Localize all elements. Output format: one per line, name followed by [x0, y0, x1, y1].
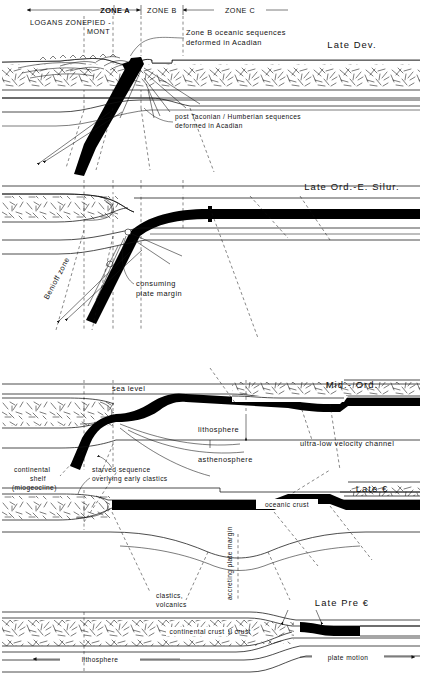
lithosphere-label-mid-ord: lithosphere: [198, 425, 239, 434]
panel-late-cambrian: Late € continental shelf (miogeocline) s…: [2, 456, 420, 608]
zone-c-label: ZONE C: [225, 6, 255, 15]
zone-b-oceanic-line2: deformed in Acadian: [186, 38, 262, 47]
panel-late-precambrian: Late Pre € continental crust continental…: [2, 597, 420, 672]
benioff-zone-label: Benioff zone: [42, 256, 72, 301]
era-label-late-dev: Late Dev.: [327, 39, 376, 50]
oceanic-crust-label: oceanic crust: [265, 501, 309, 508]
clastics-volcanics-line2: volcanics: [156, 601, 187, 608]
zone-a-label-text: ZONE A: [100, 6, 129, 15]
accreting-plate-margin-label: accreting plate margin: [226, 526, 234, 600]
divergence-arrows: [282, 610, 322, 624]
piedmont-label-line2: MONT: [87, 27, 110, 36]
sea-level-label: sea level: [112, 384, 145, 393]
asthenosphere-label: asthenosphere: [198, 455, 253, 464]
continental-shelf-line1: continental: [14, 466, 50, 473]
continental-shelf-line2: shelf: [30, 475, 46, 482]
panel-late-dev: Late Dev. Zone B oceanic sequences defor…: [2, 28, 420, 176]
post-taconian-line1: post Taconian / Humberian sequences: [175, 113, 301, 121]
piedmont-label-line1: PIED -: [87, 18, 111, 27]
subducted-slab-late-ord: [86, 209, 420, 324]
panel-late-ord-e-silur: Late Ord.-E. Silur. Benioff zone consumi…: [2, 181, 420, 338]
post-taconian-line2: deformed in Acadian: [175, 122, 243, 129]
ultra-low-velocity-channel-label: ultra-low velocity channel: [300, 439, 394, 448]
consuming-plate-margin-line2: plate margin: [136, 289, 182, 298]
logans-zone-label: LOGANS ZONE: [30, 18, 87, 27]
diagram-canvas: ZONE A ZONE A ZONE B ZONE C LOGANS ZONE …: [0, 0, 422, 677]
zone-b-oceanic-line1: Zone B oceanic sequences: [186, 28, 286, 37]
consuming-plate-margin-line1: consuming: [136, 279, 176, 288]
lithosphere-label-bottom-text: lithosphere: [82, 656, 119, 664]
era-label-late-precambrian: Late Pre €: [315, 597, 369, 608]
clastics-volcanics-line1: clastics,: [156, 592, 183, 599]
panel-mid-ord: Mid.- Ord. sea level lithosphere astheno…: [2, 368, 420, 476]
starved-sequence-line2: overlying early clastics: [92, 475, 168, 483]
zone-boundary-guides: [84, 16, 183, 530]
geologic-cross-section-figure: ZONE A ZONE A ZONE B ZONE C LOGANS ZONE …: [0, 0, 422, 677]
zone-b-label: ZONE B: [147, 6, 177, 15]
continental-crust-label-text: continental crust: [170, 628, 225, 635]
starved-sequence-line1: starved sequence: [92, 466, 150, 474]
rift-black-segment: [300, 622, 360, 636]
plate-motion-label: plate motion: [328, 654, 369, 662]
